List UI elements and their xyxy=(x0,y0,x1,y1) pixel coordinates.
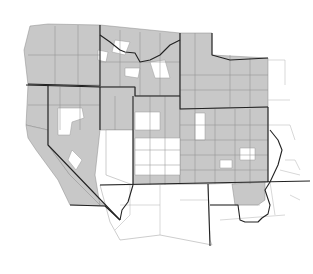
patch-11 xyxy=(240,148,255,160)
patch-5 xyxy=(135,138,180,175)
patch-6 xyxy=(195,113,205,140)
region-wa xyxy=(24,24,100,85)
patch-9 xyxy=(125,68,140,78)
region-tx-patch xyxy=(232,182,265,205)
county-map xyxy=(0,0,313,274)
patch-4 xyxy=(135,112,160,130)
patch-12 xyxy=(220,160,232,168)
region-mt-nd xyxy=(180,33,268,109)
patch-3 xyxy=(106,130,133,185)
region-az-nm xyxy=(100,184,212,245)
region-co-ne xyxy=(180,107,268,185)
